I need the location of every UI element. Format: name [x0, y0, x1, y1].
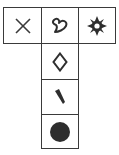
heart-outline-icon — [50, 17, 70, 35]
face-top-right — [78, 7, 116, 44]
face-second-middle — [41, 43, 79, 80]
face-third-middle — [41, 79, 79, 115]
face-top-middle — [41, 7, 79, 44]
diamond-outline-icon — [52, 52, 68, 72]
feather-quill-icon — [52, 88, 68, 106]
filled-circle-icon — [49, 121, 71, 143]
gear-sun-icon — [87, 16, 107, 36]
x-cross-icon — [14, 17, 32, 35]
face-bottom-middle — [41, 114, 79, 149]
face-top-left — [3, 7, 42, 44]
